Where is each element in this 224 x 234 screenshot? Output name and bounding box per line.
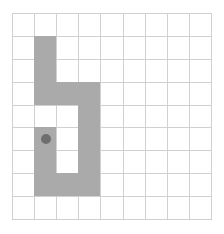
grid-cell-empty: [100, 127, 122, 150]
grid-cell-empty: [145, 105, 167, 128]
grid-cell-empty: [189, 196, 211, 219]
grid-cell-empty: [145, 59, 167, 82]
grid-cell-empty: [34, 13, 56, 36]
grid-cell-empty: [78, 196, 100, 219]
grid-cell-empty: [189, 82, 211, 105]
grid-cell-path: [34, 150, 56, 173]
grid-cell-empty: [56, 150, 78, 173]
grid-cell-empty: [56, 13, 78, 36]
grid-cell-empty: [12, 173, 34, 196]
grid-cell-empty: [167, 13, 189, 36]
grid-cell-empty: [145, 82, 167, 105]
grid-cell-empty: [12, 127, 34, 150]
grid-cell-empty: [100, 59, 122, 82]
grid-cell-empty: [78, 13, 100, 36]
grid-cell-empty: [78, 59, 100, 82]
grid-cell-empty: [123, 59, 145, 82]
grid-cell-empty: [12, 13, 34, 36]
grid-cell-empty: [12, 82, 34, 105]
grid-cell-empty: [56, 105, 78, 128]
grid-cell-empty: [189, 13, 211, 36]
grid-cell-empty: [145, 13, 167, 36]
grid-cell-empty: [34, 196, 56, 219]
grid-cell-path: [78, 127, 100, 150]
grid-cell-path: [34, 82, 56, 105]
grid-cell-empty: [189, 59, 211, 82]
grid-cell-empty: [145, 36, 167, 59]
grid-cell-empty: [189, 173, 211, 196]
grid-cell-path: [34, 173, 56, 196]
grid-cell-empty: [123, 36, 145, 59]
grid-cell-empty: [123, 105, 145, 128]
grid-cell-empty: [100, 196, 122, 219]
grid-cell-empty: [167, 36, 189, 59]
grid-cell-empty: [100, 82, 122, 105]
grid-cell-empty: [100, 13, 122, 36]
grid-cell-empty: [12, 150, 34, 173]
grid-cell-empty: [123, 196, 145, 219]
grid-cell-path: [78, 82, 100, 105]
grid-cell-path: [78, 105, 100, 128]
grid-cell-empty: [167, 59, 189, 82]
grid-cell-empty: [100, 36, 122, 59]
grid-cell-empty: [56, 36, 78, 59]
game-grid: [12, 13, 212, 220]
grid-cell-empty: [145, 150, 167, 173]
grid-cell-empty: [189, 105, 211, 128]
grid-cell-empty: [12, 59, 34, 82]
grid-cell-empty: [34, 105, 56, 128]
grid-cell-empty: [12, 196, 34, 219]
grid-cell-path: [34, 127, 56, 150]
grid-cell-path: [34, 59, 56, 82]
grid-cell-empty: [56, 196, 78, 219]
grid-cell-empty: [100, 173, 122, 196]
grid-cell-empty: [167, 82, 189, 105]
grid-cell-empty: [56, 59, 78, 82]
grid-cell-empty: [123, 173, 145, 196]
grid-cell-empty: [167, 150, 189, 173]
grid-cell-empty: [123, 82, 145, 105]
grid-cell-empty: [167, 127, 189, 150]
grid-cell-path: [78, 173, 100, 196]
agent-dot-icon: [41, 134, 51, 144]
grid-cell-empty: [145, 127, 167, 150]
grid-cell-empty: [189, 36, 211, 59]
grid-cell-empty: [167, 173, 189, 196]
grid-cell-empty: [189, 150, 211, 173]
grid-cell-empty: [145, 173, 167, 196]
grid-cell-empty: [167, 105, 189, 128]
grid-cell-empty: [12, 36, 34, 59]
grid-cell-empty: [78, 36, 100, 59]
grid-cell-empty: [145, 196, 167, 219]
grid-cell-empty: [100, 105, 122, 128]
grid-cell-path: [56, 173, 78, 196]
grid-cell-empty: [12, 105, 34, 128]
grid-cell-empty: [100, 150, 122, 173]
grid-cell-empty: [167, 196, 189, 219]
grid-cell-empty: [123, 150, 145, 173]
grid-cell-empty: [123, 127, 145, 150]
grid-cell-path: [56, 82, 78, 105]
grid-cell-path: [34, 36, 56, 59]
grid-cell-empty: [189, 127, 211, 150]
grid-cell-path: [78, 150, 100, 173]
grid-cell-empty: [123, 13, 145, 36]
grid-cell-empty: [56, 127, 78, 150]
